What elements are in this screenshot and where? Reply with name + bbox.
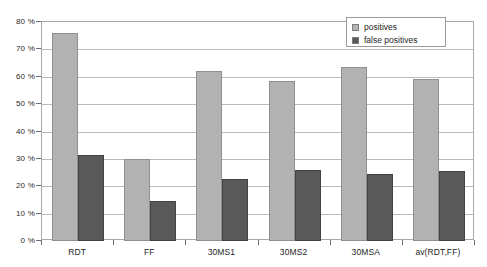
bar-RDT-positives	[52, 33, 78, 241]
x-tick-label: 30MS2	[280, 247, 307, 257]
y-tick-mark	[36, 103, 41, 104]
y-tick-label: 10 %	[16, 208, 35, 217]
bar-chart: 0 %10 %20 %30 %40 %50 %60 %70 %80 % RDTF…	[0, 0, 487, 267]
x-tick-label: av(RDT,FF)	[415, 247, 460, 257]
y-tick-mark	[36, 131, 41, 132]
bar-FF-false-positives	[150, 201, 176, 241]
bar-avRDTFF-false-positives	[439, 171, 465, 241]
bar-30MSA-false-positives	[367, 174, 393, 241]
gridline	[42, 132, 473, 133]
x-tick-label: 30MS1	[208, 247, 235, 257]
y-tick-mark	[36, 21, 41, 22]
bar-avRDTFF-positives	[413, 79, 439, 241]
y-tick-label: 20 %	[16, 181, 35, 190]
bar-30MS2-positives	[269, 81, 295, 241]
x-tick-mark	[41, 240, 42, 245]
gridline	[42, 214, 473, 215]
legend-label-positives: positives	[364, 23, 397, 32]
y-tick-label: 80 %	[16, 17, 35, 26]
plot-area	[41, 21, 474, 240]
gridline	[42, 159, 473, 160]
y-tick-label: 60 %	[16, 71, 35, 80]
gridline	[42, 77, 473, 78]
legend-swatch-positives	[352, 24, 359, 31]
x-tick-mark	[474, 240, 475, 245]
y-tick-label: 70 %	[16, 44, 35, 53]
bar-30MSA-positives	[341, 67, 367, 241]
bar-30MS2-false-positives	[295, 170, 321, 241]
x-tick-mark	[402, 240, 403, 245]
legend-label-false-positives: false positives	[364, 36, 417, 45]
y-tick-mark	[36, 76, 41, 77]
x-tick-label: 30MSA	[352, 247, 380, 257]
gridline	[42, 186, 473, 187]
x-tick-mark	[330, 240, 331, 245]
y-tick-mark	[36, 185, 41, 186]
y-tick-label: 40 %	[16, 126, 35, 135]
bar-RDT-false-positives	[78, 155, 104, 241]
legend-item-positives: positives	[352, 21, 441, 33]
x-tick-mark	[185, 240, 186, 245]
bar-30MS1-positives	[196, 71, 222, 241]
legend-swatch-false-positives	[352, 37, 359, 44]
y-tick-label: 50 %	[16, 99, 35, 108]
legend: positives false positives	[346, 17, 446, 47]
y-tick-label: 30 %	[16, 153, 35, 162]
x-tick-label: FF	[144, 247, 155, 257]
y-tick-mark	[36, 158, 41, 159]
x-tick-label: RDT	[68, 247, 86, 257]
x-tick-mark	[258, 240, 259, 245]
gridline	[42, 104, 473, 105]
y-tick-mark	[36, 48, 41, 49]
x-tick-mark	[113, 240, 114, 245]
y-tick-label: 0 %	[21, 236, 35, 245]
bar-30MS1-false-positives	[222, 179, 248, 241]
gridline	[42, 49, 473, 50]
bar-FF-positives	[124, 159, 150, 241]
legend-item-false-positives: false positives	[352, 34, 441, 46]
y-tick-mark	[36, 213, 41, 214]
